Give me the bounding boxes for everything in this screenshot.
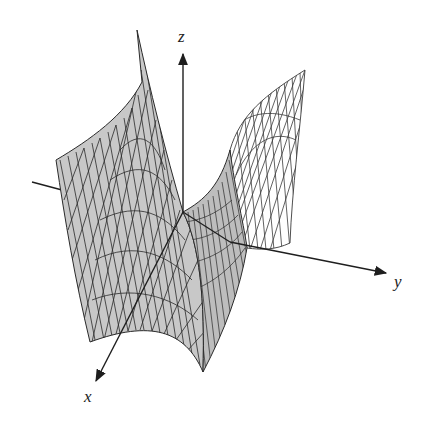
x-axis-back	[32, 182, 62, 190]
y-axis	[230, 242, 386, 273]
x-axis-label: x	[83, 387, 92, 406]
saddle-surface-figure: z x y	[0, 0, 428, 425]
z-axis-label: z	[177, 27, 185, 46]
y-axis-label: y	[392, 272, 402, 291]
